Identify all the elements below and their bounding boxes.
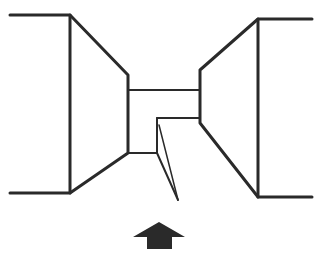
corridor-drawing [0,0,321,270]
right-wall [200,19,312,197]
forward-arrow-icon[interactable] [133,222,185,249]
left-wall [10,15,128,193]
side-door [157,118,178,200]
corridor-diagram [0,0,321,270]
